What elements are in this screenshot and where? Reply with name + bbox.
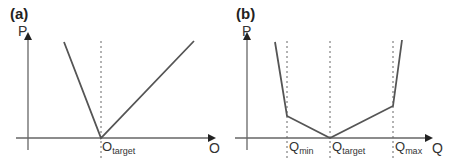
panel-b-label: (b): [236, 5, 255, 22]
penalty-function-diagram: (a) P O Otarget (b) P Q Qmin Qtarget Qma…: [0, 0, 451, 167]
panel-b-min-marker: Qmin: [289, 139, 314, 156]
panel-b-x-axis-label: Q: [432, 140, 443, 156]
panel-a: (a) P O Otarget: [10, 5, 220, 158]
panel-b: (b) P Q Qmin Qtarget Qmax: [235, 5, 443, 158]
panel-a-x-axis-label: O: [209, 140, 220, 156]
panel-a-y-axis-label: P: [18, 23, 27, 39]
panel-a-target-marker: Otarget: [102, 139, 136, 156]
panel-a-label: (a): [10, 5, 28, 22]
panel-b-max-marker: Qmax: [395, 139, 423, 156]
panel-b-target-marker: Qtarget: [332, 139, 366, 156]
panel-a-penalty-curve: [64, 41, 194, 138]
panel-b-penalty-curve: [275, 40, 402, 138]
